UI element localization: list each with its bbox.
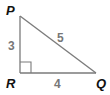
vertex-label-r: R	[6, 76, 16, 91]
side-label-pq: 5	[57, 31, 64, 45]
side-label-pr: 3	[8, 39, 15, 53]
right-angle-marker	[20, 62, 31, 73]
vertex-label-q: Q	[96, 76, 106, 91]
side-label-rq: 4	[54, 77, 61, 91]
vertex-label-p: P	[6, 3, 15, 18]
right-triangle-diagram: P R Q 3 5 4	[0, 0, 110, 95]
